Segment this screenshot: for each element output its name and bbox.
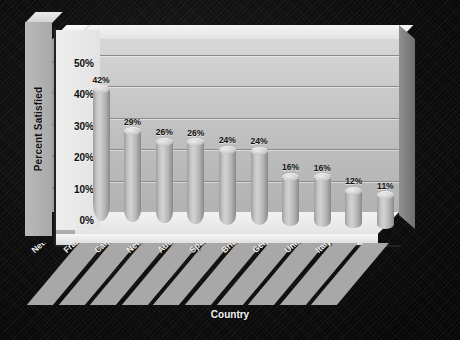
bar-body: [282, 176, 299, 226]
bar-value-label: 29%: [124, 117, 141, 127]
bar[interactable]: 24%: [251, 150, 268, 225]
bar[interactable]: 12%: [345, 190, 362, 228]
bar-body: [219, 149, 236, 224]
bar-value-label: 16%: [314, 163, 331, 173]
bar-top-cap: [282, 173, 299, 181]
bar-chart-3d: Percent Satisfied 0%10%20%30%40%50% 42%2…: [0, 0, 460, 340]
bar-body: [187, 142, 204, 224]
x-axis-title: Country: [0, 309, 460, 320]
bar-body: [156, 141, 173, 223]
bar[interactable]: 16%: [314, 177, 331, 227]
x-axis-category-labels: NetherlandsFranceCanadaNew ZealandAustra…: [22, 243, 438, 305]
bar-value-label: 26%: [156, 127, 173, 137]
bar-value-label: 24%: [219, 135, 236, 145]
bar-body: [124, 131, 141, 222]
bar-body: [314, 177, 331, 227]
bar-top-cap: [251, 147, 268, 155]
bar-body: [377, 195, 394, 230]
bar-top-cap: [377, 191, 394, 199]
bar-value-label: 12%: [345, 176, 362, 186]
bar-value-label: 42%: [92, 75, 109, 85]
bar[interactable]: 11%: [377, 195, 394, 230]
bar-top-cap: [156, 138, 173, 146]
bar[interactable]: 42%: [93, 89, 110, 221]
bar-value-label: 16%: [282, 162, 299, 172]
bar[interactable]: 26%: [187, 142, 204, 224]
bar[interactable]: 29%: [124, 131, 141, 222]
bar-body: [93, 89, 110, 221]
bar[interactable]: 26%: [156, 141, 173, 223]
bar-value-label: 24%: [250, 136, 267, 146]
bar-value-label: 11%: [377, 181, 394, 191]
bar-value-label: 26%: [187, 128, 204, 138]
bar[interactable]: 24%: [219, 149, 236, 224]
bar-top-cap: [219, 146, 236, 154]
bar[interactable]: 16%: [282, 176, 299, 226]
bar-body: [345, 190, 362, 228]
bar-body: [251, 150, 268, 225]
